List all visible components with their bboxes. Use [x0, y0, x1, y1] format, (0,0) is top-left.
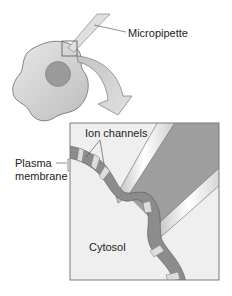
ion-channels-label: Ion channels [85, 127, 147, 140]
plasma-membrane-bracket [68, 159, 69, 171]
micropipette-label: Micropipette [128, 27, 188, 40]
inset-magnified-view [56, 118, 230, 282]
nucleus [46, 62, 71, 87]
micropipette-leader-line [94, 25, 126, 32]
cytosol-label: Cytosol [89, 241, 126, 254]
plasma-membrane-label-line1: Plasma [15, 157, 52, 170]
plasma-membrane-label-line2: membrane [15, 170, 68, 183]
